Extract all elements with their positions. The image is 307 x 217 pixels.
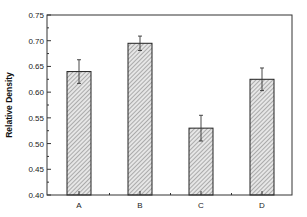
x-tick-label: A [76,201,82,210]
y-axis: 0.400.450.500.550.600.650.700.75 [28,11,51,200]
y-tick-label: 0.65 [28,62,44,71]
y-tick-label: 0.40 [28,191,44,200]
y-tick-label: 0.55 [28,114,44,123]
y-tick-label: 0.75 [28,11,44,20]
x-tick-label: D [259,201,265,210]
bar-chart: 0.400.450.500.550.600.650.700.75 ABCD Re… [0,0,307,217]
y-tick-label: 0.70 [28,37,44,46]
y-tick-label: 0.45 [28,165,44,174]
y-tick-label: 0.50 [28,140,44,149]
y-tick-label: 0.60 [28,88,44,97]
x-tick-label: C [198,201,204,210]
bar-a [67,72,91,195]
bar-d [250,79,274,195]
y-axis-title: Relative Density [4,72,14,138]
x-axis: ABCD [76,191,265,210]
error-bars-group [77,36,264,141]
bar-b [128,43,152,195]
bars-group [67,43,274,195]
x-tick-label: B [137,201,142,210]
